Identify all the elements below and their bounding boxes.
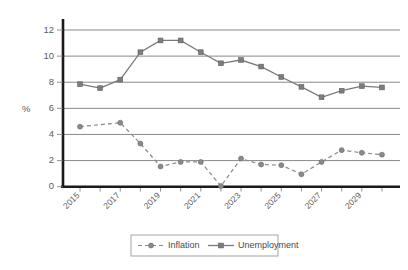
data-point-inflation <box>379 152 384 157</box>
data-point-unemployment <box>339 88 344 93</box>
y-axis-title: % <box>22 103 31 114</box>
x-tick-label: 2017 <box>101 190 122 211</box>
x-tick-label: 2027 <box>303 190 324 211</box>
y-tick-label: 8 <box>49 76 54 87</box>
data-point-inflation <box>279 163 284 168</box>
data-point-unemployment <box>198 50 203 55</box>
data-point-unemployment <box>299 84 304 89</box>
data-point-unemployment <box>78 82 83 87</box>
legend-label-inflation: Inflation <box>168 240 200 250</box>
x-tick-label: 2019 <box>141 190 162 211</box>
y-tick-label: 0 <box>49 180 54 191</box>
x-axis-tick-labels: 20152017201920212023202520272029 <box>61 190 363 211</box>
data-point-unemployment <box>259 64 264 69</box>
x-tick-label: 2015 <box>61 190 82 211</box>
data-point-unemployment <box>279 75 284 80</box>
data-point-inflation <box>218 184 223 189</box>
chart-container: 024681012 201520172019202120232025202720… <box>0 0 408 270</box>
line-chart: 024681012 201520172019202120232025202720… <box>0 0 408 270</box>
data-point-inflation <box>319 159 324 164</box>
data-point-inflation <box>339 148 344 153</box>
y-tick-label: 6 <box>49 102 54 113</box>
data-point-inflation <box>259 162 264 167</box>
data-point-inflation <box>78 124 83 129</box>
data-point-inflation <box>138 141 143 146</box>
data-point-unemployment <box>219 61 224 66</box>
data-point-unemployment <box>178 38 183 43</box>
data-point-unemployment <box>239 58 244 63</box>
x-tick-label: 2029 <box>343 190 364 211</box>
data-point-inflation <box>359 150 364 155</box>
y-tick-label: 4 <box>49 128 54 139</box>
series-layer <box>78 38 385 189</box>
data-point-unemployment <box>138 50 143 55</box>
series-line-unemployment <box>80 40 382 97</box>
y-axis-tick-labels: 024681012 <box>43 24 63 192</box>
legend-label-unemployment: Unemployment <box>238 240 299 250</box>
series-line-inflation <box>80 123 382 186</box>
data-point-inflation <box>299 172 304 177</box>
data-point-unemployment <box>118 77 123 82</box>
x-tick-label: 2021 <box>182 190 203 211</box>
y-tick-label: 10 <box>43 50 54 61</box>
data-point-inflation <box>178 159 183 164</box>
gridlines-group <box>63 30 400 161</box>
data-point-unemployment <box>319 95 324 100</box>
data-point-unemployment <box>359 84 364 89</box>
data-point-inflation <box>158 164 163 169</box>
legend-marker-unemployment <box>219 243 224 248</box>
data-point-inflation <box>118 120 123 125</box>
y-tick-label: 12 <box>43 24 54 35</box>
data-point-inflation <box>239 156 244 161</box>
legend-marker-inflation <box>149 243 154 248</box>
data-point-unemployment <box>158 38 163 43</box>
chart-legend[interactable]: InflationUnemployment <box>131 235 299 256</box>
data-point-unemployment <box>380 85 385 90</box>
data-point-inflation <box>198 159 203 164</box>
x-tick-label: 2023 <box>222 190 243 211</box>
y-tick-label: 2 <box>49 154 54 165</box>
x-tick-label: 2025 <box>262 190 283 211</box>
data-point-unemployment <box>98 86 103 91</box>
